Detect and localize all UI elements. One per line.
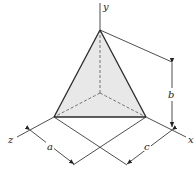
dimension-label-c: c	[144, 141, 150, 152]
tetrahedron-face	[54, 30, 146, 117]
dimension-label-a: a	[47, 141, 53, 152]
y-axis-label: y	[102, 1, 109, 12]
tetrahedron-diagram: y z x a c b	[0, 0, 196, 174]
x-axis-label: x	[188, 134, 194, 145]
z-axis-label: z	[7, 134, 14, 145]
extension-line-a	[54, 117, 127, 165]
dimension-label-b: b	[168, 89, 174, 100]
